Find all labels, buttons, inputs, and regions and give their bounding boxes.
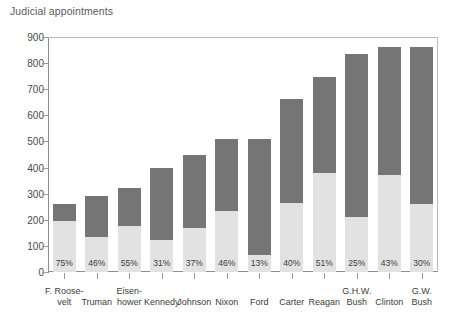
bars-layer: 75%46%55%31%37%46%13%40%51%25%43%30%: [48, 37, 438, 272]
bar-g-w-bush[interactable]: 30%: [410, 47, 433, 272]
bar-segment-lower: 37%: [183, 228, 206, 272]
bar-segment-upper: [215, 139, 238, 211]
x-axis-tick-mark: [389, 273, 390, 279]
bar-percent-label: 46%: [215, 258, 238, 268]
bar-percent-label: 46%: [85, 258, 108, 268]
bar-carter[interactable]: 40%: [280, 99, 303, 272]
x-axis-tick-mark: [259, 273, 260, 279]
x-axis-tick-mark: [357, 273, 358, 279]
x-axis-tick-mark: [324, 273, 325, 279]
y-axis-tick-label: 500: [0, 136, 44, 147]
bar-segment-upper: [313, 77, 336, 172]
bar-segment-lower: 51%: [313, 173, 336, 272]
chart-container: Judicial appointments 010020030040050060…: [0, 0, 451, 325]
y-axis-tick-label: 400: [0, 162, 44, 173]
bar-segment-upper: [410, 47, 433, 204]
bar-percent-label: 51%: [313, 258, 336, 268]
bar-segment-upper: [183, 155, 206, 229]
bar-segment-upper: [53, 204, 76, 221]
y-axis-tick-label: 600: [0, 110, 44, 121]
chart-title: Judicial appointments: [10, 5, 113, 17]
bar-segment-lower: 46%: [215, 211, 238, 272]
bar-segment-lower: 13%: [248, 255, 271, 272]
bar-segment-upper: [280, 99, 303, 203]
y-axis-tick-label: 100: [0, 240, 44, 251]
bar-percent-label: 37%: [183, 258, 206, 268]
bar-nixon[interactable]: 46%: [215, 139, 238, 272]
x-axis-tick-mark: [162, 273, 163, 279]
y-axis-tick-mark: [42, 272, 48, 273]
bar-segment-upper: [118, 188, 141, 226]
bar-percent-label: 30%: [410, 258, 433, 268]
bar-truman[interactable]: 46%: [85, 196, 108, 272]
bar-eisenhower[interactable]: 55%: [118, 188, 141, 272]
y-axis-tick-label: 0: [0, 267, 44, 278]
bar-clinton[interactable]: 43%: [378, 47, 401, 272]
bar-segment-lower: 25%: [345, 217, 368, 272]
x-axis-label-line2: Bush: [388, 297, 451, 308]
bar-percent-label: 31%: [150, 258, 173, 268]
y-axis-tick-label: 200: [0, 214, 44, 225]
x-axis-tick-label: G.W.Bush: [388, 286, 451, 307]
y-axis-tick-label: 700: [0, 84, 44, 95]
y-axis-tick-label: 800: [0, 58, 44, 69]
bar-percent-label: 40%: [280, 258, 303, 268]
x-axis-tick-mark: [97, 273, 98, 279]
bar-percent-label: 43%: [378, 258, 401, 268]
x-axis-tick-mark: [194, 273, 195, 279]
bar-segment-upper: [85, 196, 108, 237]
x-axis-tick-mark: [227, 273, 228, 279]
bar-segment-upper: [248, 139, 271, 255]
bar-segment-lower: 75%: [53, 221, 76, 272]
bar-segment-upper: [378, 47, 401, 175]
bar-segment-lower: 30%: [410, 204, 433, 272]
bar-segment-lower: 55%: [118, 226, 141, 272]
bar-percent-label: 75%: [53, 258, 76, 268]
bar-segment-upper: [150, 168, 173, 240]
bar-segment-upper: [345, 54, 368, 217]
x-axis-tick-mark: [64, 273, 65, 279]
bar-segment-lower: 40%: [280, 203, 303, 272]
bar-kennedy[interactable]: 31%: [150, 168, 173, 272]
bar-reagan[interactable]: 51%: [313, 77, 336, 272]
x-axis-tick-mark: [129, 273, 130, 279]
x-axis-tick-mark: [422, 273, 423, 279]
bar-g-h-w-bush[interactable]: 25%: [345, 54, 368, 272]
x-axis-tick-mark: [292, 273, 293, 279]
bar-segment-lower: 43%: [378, 175, 401, 272]
bar-segment-lower: 46%: [85, 237, 108, 272]
y-axis-tick-label: 900: [0, 32, 44, 43]
bar-segment-lower: 31%: [150, 240, 173, 272]
bar-percent-label: 55%: [118, 258, 141, 268]
bar-ford[interactable]: 13%: [248, 139, 271, 272]
bar-f-roosevelt[interactable]: 75%: [53, 204, 76, 272]
bar-percent-label: 13%: [248, 258, 271, 268]
y-axis-tick-label: 300: [0, 188, 44, 199]
x-axis-label-line1: G.W.: [412, 286, 432, 296]
bar-percent-label: 25%: [345, 258, 368, 268]
bar-johnson[interactable]: 37%: [183, 155, 206, 273]
